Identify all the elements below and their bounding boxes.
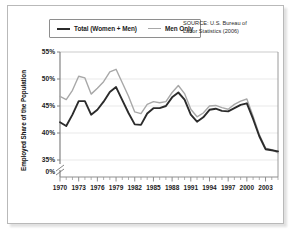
legend-line-swatch-total-icon: [57, 28, 70, 30]
y-tick-labels: 55%50%45%40%35%0%: [42, 48, 55, 175]
x-tick-label: 1979: [109, 184, 124, 191]
legend-label-total: Total (Women + Men): [74, 25, 137, 32]
y-axis-title-label: Employed Share of the Population: [20, 70, 27, 171]
source-note-line-1: SOURCE: U.S. Bureau of: [183, 19, 271, 27]
x-tick-label: 1973: [71, 184, 86, 191]
legend-item-total: Total (Women + Men): [57, 25, 137, 32]
chart-figure: Total (Women + Men) Men Only SOURCE: U.S…: [0, 0, 292, 233]
x-axis-ticks: [60, 177, 278, 182]
x-tick-labels: 1970197319761979198219851988199119941997…: [53, 184, 273, 191]
chart-card: Total (Women + Men) Men Only SOURCE: U.S…: [7, 5, 284, 224]
legend-line-swatch-men-icon: [148, 28, 161, 29]
x-tick-label: 1994: [202, 184, 217, 191]
y-tick-label: 40%: [42, 129, 55, 136]
y-axis-title: Employed Share of the Population: [17, 50, 29, 190]
y-tick-label: 55%: [42, 48, 55, 55]
y-tick-label-zero: 0%: [45, 168, 55, 175]
x-tick-label: 1970: [53, 184, 68, 191]
data-series: [60, 69, 278, 153]
x-tick-label: 1997: [221, 184, 236, 191]
plot-area: 55%50%45%40%35%0% 1970197319761979198219…: [29, 44, 284, 196]
x-tick-label: 1985: [146, 184, 161, 191]
source-note: SOURCE: U.S. Bureau of Labor Statistics …: [183, 19, 271, 36]
y-tick-label: 35%: [42, 156, 55, 163]
source-note-line-2: Labor Statistics (2006): [183, 27, 271, 35]
x-tick-label: 1988: [165, 184, 180, 191]
chart-legend: Total (Women + Men) Men Only: [49, 19, 201, 38]
x-tick-label: 1982: [128, 184, 143, 191]
chart-plot-svg: 55%50%45%40%35%0% 1970197319761979198219…: [29, 44, 284, 196]
x-tick-label: 1976: [90, 184, 105, 191]
x-tick-label: 2000: [240, 184, 255, 191]
x-tick-label: 2003: [258, 184, 273, 191]
y-tick-label: 45%: [42, 102, 55, 109]
x-tick-label: 1991: [184, 184, 199, 191]
series-line-men-only: [60, 69, 278, 153]
axis-lines: [56, 52, 278, 177]
y-tick-label: 50%: [42, 75, 55, 82]
grid-lines: [60, 52, 278, 160]
